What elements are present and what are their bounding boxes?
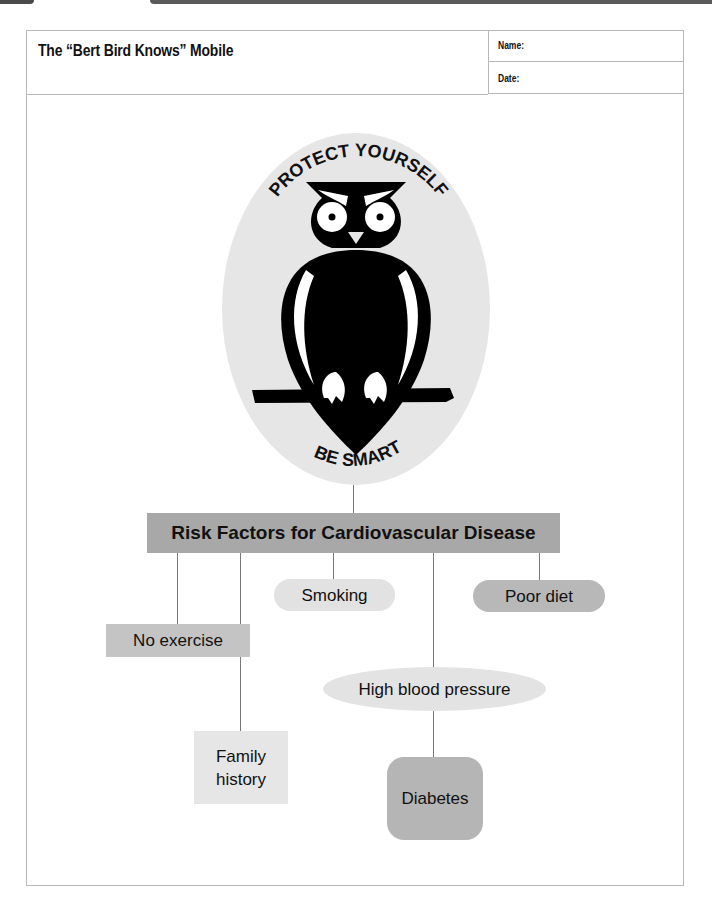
node-no-exercise-label: No exercise [133,629,223,652]
node-smoking: Smoking [274,579,395,611]
name-date-box: Name: Date: [488,30,684,94]
node-no-exercise: No exercise [106,624,250,657]
connector-emblem-main [353,485,354,513]
node-family-history-line1: Family [216,745,266,768]
date-field[interactable]: Date: [489,62,684,94]
node-diabetes-label: Diabetes [401,787,468,810]
node-family-history: Family history [194,731,288,804]
risk-factors-title: Risk Factors for Cardiovascular Disease [171,522,535,544]
node-poor-diet-label: Poor diet [505,585,573,608]
page-title: The “Bert Bird Knows” Mobile [38,41,233,61]
connector-poor-diet [539,553,540,580]
name-field[interactable]: Name: [489,30,684,62]
node-diabetes: Diabetes [387,757,483,840]
owl-emblem: PROTECT YOURSELF BE SMART [210,120,500,500]
node-family-history-line2: history [216,768,266,791]
top-bar-tab-left [0,0,34,4]
connector-high-blood-pressure [433,553,434,667]
node-smoking-label: Smoking [301,584,367,607]
date-label: Date: [498,73,519,84]
top-bar-right [150,0,712,4]
connector-no-exercise [177,553,178,624]
node-high-blood-pressure: High blood pressure [323,667,546,711]
risk-factors-title-box: Risk Factors for Cardiovascular Disease [147,513,560,553]
connector-smoking [333,553,334,579]
connector-diabetes [433,711,434,757]
header-divider [26,94,488,95]
node-hbp-label: High blood pressure [358,678,510,701]
node-poor-diet: Poor diet [473,580,605,612]
name-label: Name: [498,40,524,51]
